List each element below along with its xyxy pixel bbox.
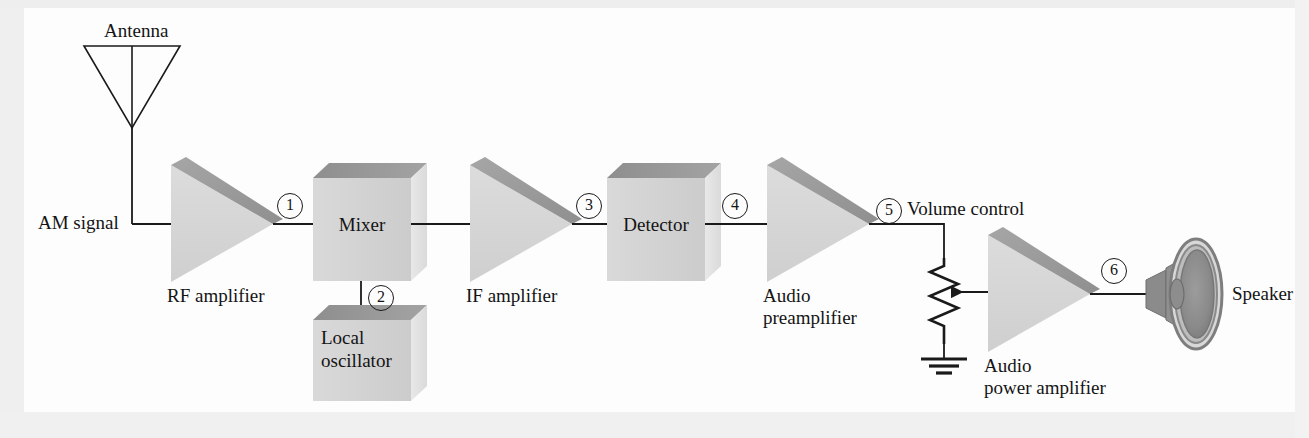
local-oscillator-label-line1: Local (321, 327, 411, 349)
speaker-symbol (1146, 239, 1222, 349)
mixer-label: Mixer (313, 214, 411, 236)
audio-preamplifier-label-line1: Audio (763, 285, 811, 307)
audio-preamplifier-symbol (767, 157, 879, 282)
callout-3: 3 (576, 193, 602, 219)
detector-label: Detector (607, 214, 705, 236)
ground-symbol (921, 344, 967, 373)
am-signal-label: AM signal (38, 212, 119, 234)
antenna-label: Antenna (104, 20, 168, 42)
if-amplifier-label: IF amplifier (466, 285, 557, 307)
callout-5: 5 (876, 198, 902, 224)
audio-power-amplifier-label-line1: Audio (984, 355, 1032, 377)
callout-2: 2 (368, 285, 394, 311)
callout-1: 1 (277, 193, 303, 219)
volume-control-label: Volume control (907, 198, 1024, 220)
rf-amplifier-symbol (171, 157, 283, 282)
local-oscillator-label-line2: oscillator (321, 350, 421, 372)
if-amplifier-symbol (470, 157, 582, 282)
speaker-label: Speaker (1232, 283, 1293, 305)
rf-amplifier-label: RF amplifier (167, 285, 265, 307)
figure-canvas: Antenna AM signal RF amplifier Mixer Loc… (0, 0, 1309, 438)
antenna-symbol (84, 46, 180, 224)
audio-preamplifier-label-line2: preamplifier (763, 307, 857, 329)
audio-power-amplifier-label-line2: power amplifier (984, 377, 1106, 399)
audio-power-amplifier-symbol (988, 227, 1100, 352)
callout-4: 4 (722, 193, 748, 219)
callout-6: 6 (1101, 258, 1127, 284)
